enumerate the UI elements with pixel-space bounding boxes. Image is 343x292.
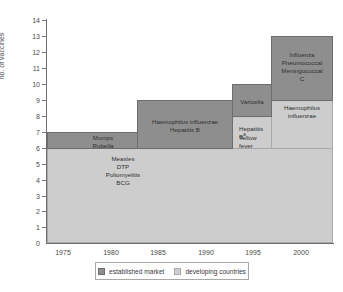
y-tick-label-9: 9 [18, 97, 40, 104]
x-tick-label-1980: 1980 [91, 249, 131, 256]
area-established-1973-1982: Mumps Rubella [47, 132, 138, 149]
y-tick-10 [42, 84, 46, 85]
y-tick-label-0: 0 [18, 240, 40, 247]
label-haemophilus-dev-line1: Haemophilus [272, 104, 332, 112]
area-developing-1997-2002: Haemophilus influenzae [271, 100, 333, 149]
y-tick-11 [42, 68, 46, 69]
label-poliomyelitis: Poliomyelitis [48, 171, 198, 179]
y-tick-3 [42, 196, 46, 197]
legend-swatch-established-market [98, 268, 105, 275]
label-measles: Measles [48, 155, 198, 163]
legend-swatch-developing-countries [174, 268, 181, 275]
legend-label-developing-countries: developing countries [185, 268, 245, 275]
y-tick-6 [42, 148, 46, 149]
y-tick-7 [42, 132, 46, 133]
y-tick-label-13: 13 [18, 33, 40, 40]
x-tick-label-1995: 1995 [233, 249, 273, 256]
y-tick-label-7: 7 [18, 129, 40, 136]
y-tick-label-12: 12 [18, 49, 40, 56]
area-established-1993-1997: Varicella [232, 84, 272, 117]
x-tick-label-1990: 1990 [186, 249, 226, 256]
label-influenza: Influenza [272, 51, 332, 59]
label-hib-hepb-line2: Hepatitis B [138, 126, 232, 134]
label-yellow-fever: Yellow fever [233, 134, 271, 149]
y-tick-1 [42, 227, 46, 228]
y-tick-12 [42, 52, 46, 53]
y-tick-label-14: 14 [18, 17, 40, 24]
vaccine-schedule-step-chart: 14 13 12 11 10 9 8 7 6 5 4 3 2 1 0 no. o… [0, 0, 343, 292]
area-established-1997-2002: Influenza Pneumococcal Meningococcal C [271, 36, 333, 101]
y-tick-4 [42, 180, 46, 181]
label-hib-hepb-line1: Haemophilus influenzae [138, 118, 232, 126]
area-developing-1993-1997: Hepatitis Ba Yellow fever [232, 116, 272, 149]
x-tick-label-2000: 2000 [281, 249, 321, 256]
y-tick-2 [42, 211, 46, 212]
label-meningococcal: Meningococcal [272, 67, 332, 75]
y-tick-9 [42, 100, 46, 101]
label-haemophilus-dev-line2: influenzae [272, 112, 332, 120]
label-varicella: Varicella [233, 98, 271, 106]
y-tick-label-5: 5 [18, 161, 40, 168]
legend-label-established-market: established market [109, 268, 164, 275]
y-tick-14 [42, 20, 46, 21]
y-tick-label-11: 11 [18, 65, 40, 72]
x-tick-label-1985: 1985 [138, 249, 178, 256]
label-dtp: DTP [48, 163, 198, 171]
y-tick-label-8: 8 [18, 113, 40, 120]
legend-item-developing-countries[interactable]: developing countries [174, 268, 245, 275]
label-bcg: BCG [48, 179, 198, 187]
y-tick-label-2: 2 [18, 208, 40, 215]
y-tick-label-1: 1 [18, 224, 40, 231]
y-tick-label-10: 10 [18, 81, 40, 88]
y-tick-5 [42, 164, 46, 165]
y-tick-label-3: 3 [18, 193, 40, 200]
y-tick-label-6: 6 [18, 145, 40, 152]
x-tick-label-1975: 1975 [43, 249, 83, 256]
x-axis-line [46, 243, 334, 244]
chart-legend: established market developing countries [95, 262, 249, 280]
legend-item-established-market[interactable]: established market [98, 268, 164, 275]
label-meningococcal-c: C [272, 75, 332, 83]
clipped-header-text [40, 0, 330, 9]
y-tick-13 [42, 36, 46, 37]
y-tick-8 [42, 116, 46, 117]
area-developing-base: Measles DTP Poliomyelitis BCG [47, 148, 333, 243]
label-pneumococcal: Pneumococcal [272, 59, 332, 67]
y-tick-label-4: 4 [18, 177, 40, 184]
area-established-1982-1993: Haemophilus influenzae Hepatitis B [137, 100, 233, 149]
y-axis-label: no. of vaccines [0, 16, 5, 96]
